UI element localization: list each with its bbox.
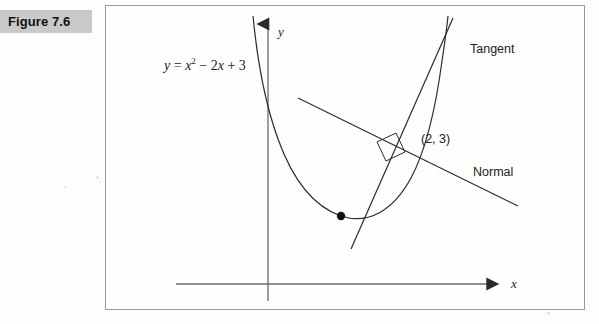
equation-term2-var: x (218, 58, 224, 73)
tangent-line-label: Tangent (470, 42, 514, 56)
scan-speck (99, 181, 101, 183)
parabola-curve (253, 16, 448, 219)
tangency-point-label: (2, 3) (421, 132, 450, 146)
equation-term3: + 3 (227, 58, 245, 73)
equation-term1-exponent: 2 (191, 56, 196, 66)
normal-line-label: Normal (473, 165, 513, 179)
x-axis-label: x (511, 276, 517, 292)
equation-term2: − 2 (199, 58, 217, 73)
equation-lhs: y (164, 58, 170, 73)
figure-number-label: Figure 7.6 (8, 14, 70, 29)
scan-speck (547, 312, 550, 315)
figure-number-banner: Figure 7.6 (0, 10, 92, 33)
vertex-point-marker (337, 212, 345, 220)
equation-equals: = (174, 58, 182, 73)
figure-frame: y = x2 − 2x + 3 y x Tangent Normal (2, 3… (105, 5, 585, 310)
scan-speck (96, 176, 99, 179)
y-axis-label: y (278, 24, 284, 40)
scan-speck (64, 186, 66, 188)
curve-equation-label: y = x2 − 2x + 3 (164, 56, 246, 74)
normal-line (298, 98, 518, 206)
